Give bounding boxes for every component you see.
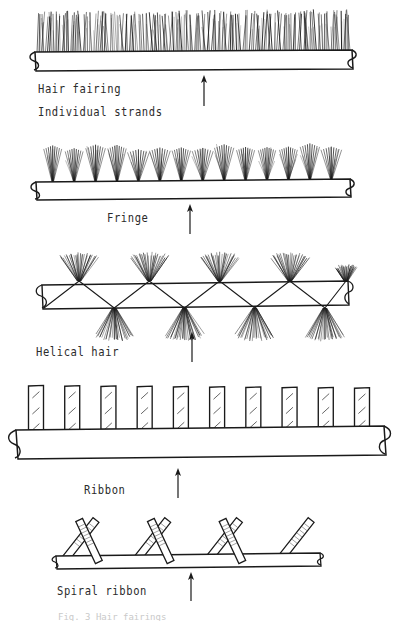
ribbon-cable [9,426,391,459]
figure-sheet: Hair fairing Individual strands Fringe H… [0,0,407,621]
flow-arrow-spiral-ribbon [188,572,194,601]
ribbon-tabs [29,385,370,430]
panel-ribbon [9,385,391,498]
flow-arrow-hair-fairing [201,75,207,106]
flow-arrow-fringe [187,204,193,234]
label-ribbon: Ribbon [84,483,126,496]
label-fringe: Fringe [107,211,149,224]
label-individual-strands: Individual strands [38,105,163,118]
fringe-cable [31,179,354,200]
label-hair-fairing: Hair fairing [38,82,121,95]
hair-fairing-cable [30,50,356,71]
hair-fairing-strands [37,9,350,53]
helical-hair-tufts-front [96,308,344,341]
flow-arrow-ribbon [175,468,181,498]
figure-caption: Fig. 3 Hair fairings [58,612,208,621]
fringe-tufts [44,143,342,182]
helical-hair-tufts-back [60,252,357,281]
panel-fringe [31,143,354,234]
label-spiral-ribbon: Spiral ribbon [57,584,147,597]
label-helical-hair: Helical hair [36,345,119,358]
